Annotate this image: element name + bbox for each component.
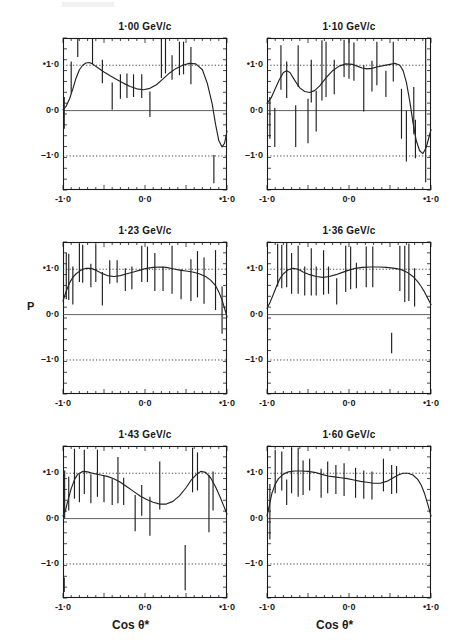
plot-area	[267, 242, 431, 394]
y-tick-label: –1·0	[235, 558, 263, 568]
error-bar-group	[64, 448, 213, 592]
y-tick-label: 0·0	[31, 309, 59, 319]
x-axis-label-left: Cos θ*	[112, 618, 149, 632]
fit-curve	[63, 267, 227, 317]
y-tick-label: 0·0	[235, 105, 263, 115]
error-bar-group	[270, 448, 397, 540]
x-tick-label: •1·0	[214, 602, 240, 612]
x-axis-label-right: Cos θ*	[316, 618, 353, 632]
x-tick-label: 0·0	[336, 398, 362, 408]
plot-area	[63, 38, 227, 190]
plot-area	[267, 38, 431, 190]
y-tick-label: 0·0	[235, 309, 263, 319]
chart-panel-panel-1-43: 1·43 GeV/c•1·00·0–1·0-1·00·0•1·0	[63, 446, 227, 598]
plot-frame	[64, 39, 227, 190]
error-bar-group	[66, 244, 222, 334]
y-tick-label: •1·0	[31, 59, 59, 69]
x-tick-label: 0·0	[132, 602, 158, 612]
panel-title: 1·60 GeV/c	[267, 429, 431, 440]
x-tick-label: •1·0	[214, 398, 240, 408]
y-tick-label: •1·0	[235, 59, 263, 69]
panel-title: 1·00 GeV/c	[63, 21, 227, 32]
x-tick-label: -1·0	[254, 398, 280, 408]
x-tick-label: •1·0	[418, 602, 444, 612]
y-tick-label: –1·0	[235, 354, 263, 364]
x-tick-label: -1·0	[50, 398, 76, 408]
y-tick-label: –1·0	[31, 354, 59, 364]
y-tick-label: •1·0	[31, 263, 59, 273]
x-tick-label: 0·0	[336, 602, 362, 612]
x-tick-label: -1·0	[254, 602, 280, 612]
chart-panel-panel-1-10: 1·10 GeV/c•1·00·0–1·0-1·00·0•1·0	[267, 38, 431, 190]
polarization-figure: P Cos θ* Cos θ* 1·00 GeV/c•1·00·0–1·0-1·…	[0, 0, 463, 644]
x-tick-label: -1·0	[50, 194, 76, 204]
chart-panel-panel-1-60: 1·60 GeV/c•1·00·0–1·0-1·00·0•1·0	[267, 446, 431, 598]
y-tick-label: •1·0	[235, 467, 263, 477]
x-tick-label: -1·0	[50, 602, 76, 612]
error-bar-group	[278, 243, 415, 353]
plot-frame	[64, 243, 227, 394]
chart-panel-panel-1-36: 1·36 GeV/c•1·00·0–1·0-1·00·0•1·0	[267, 242, 431, 394]
plot-area	[63, 242, 227, 394]
fit-curve	[63, 471, 227, 515]
fit-curve	[63, 63, 227, 147]
panel-title: 1·36 GeV/c	[267, 225, 431, 236]
x-tick-label: 0·0	[132, 194, 158, 204]
plot-area	[63, 446, 227, 598]
y-tick-label: –1·0	[31, 150, 59, 160]
x-tick-label: 0·0	[132, 398, 158, 408]
panel-title: 1·43 GeV/c	[63, 429, 227, 440]
x-tick-label: -1·0	[254, 194, 280, 204]
chart-panel-panel-1-23: 1·23 GeV/c•1·00·0–1·0-1·00·0•1·0	[63, 242, 227, 394]
plot-frame	[64, 447, 227, 598]
plot-area	[267, 446, 431, 598]
panel-title: 1·10 GeV/c	[267, 21, 431, 32]
x-tick-label: •1·0	[418, 398, 444, 408]
y-tick-label: 0·0	[31, 105, 59, 115]
y-tick-label: •1·0	[31, 467, 59, 477]
x-tick-label: 0·0	[336, 194, 362, 204]
y-tick-label: –1·0	[235, 150, 263, 160]
x-tick-label: •1·0	[418, 194, 444, 204]
y-tick-label: –1·0	[31, 558, 59, 568]
panel-title: 1·23 GeV/c	[63, 225, 227, 236]
y-tick-label: 0·0	[31, 513, 59, 523]
x-tick-label: •1·0	[214, 194, 240, 204]
y-tick-label: 0·0	[235, 513, 263, 523]
chart-panel-panel-1-00: 1·00 GeV/c•1·00·0–1·0-1·00·0•1·0	[63, 38, 227, 190]
y-tick-label: •1·0	[235, 263, 263, 273]
